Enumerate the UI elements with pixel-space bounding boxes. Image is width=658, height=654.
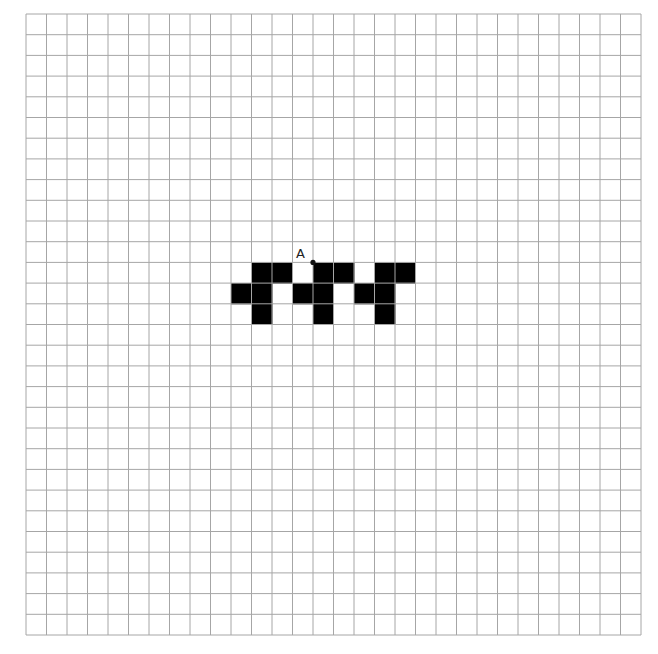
- filled-cell: [252, 304, 273, 325]
- filled-cells: [231, 262, 416, 325]
- filled-cell: [293, 283, 314, 304]
- filled-cell: [231, 283, 252, 304]
- filled-cell: [252, 262, 273, 283]
- filled-cell: [375, 304, 396, 325]
- filled-cell: [375, 262, 396, 283]
- grid-diagram: [0, 0, 658, 654]
- filled-cell: [313, 304, 334, 325]
- point-a-label: A: [296, 247, 305, 260]
- filled-cell: [334, 262, 355, 283]
- filled-cell: [395, 262, 416, 283]
- filled-cell: [252, 283, 273, 304]
- filled-cell: [313, 262, 334, 283]
- point-a-marker: [310, 260, 315, 265]
- filled-cell: [354, 283, 375, 304]
- filled-cell: [272, 262, 293, 283]
- filled-cell: [313, 283, 334, 304]
- filled-cell: [375, 283, 396, 304]
- grid-lines: [26, 14, 641, 635]
